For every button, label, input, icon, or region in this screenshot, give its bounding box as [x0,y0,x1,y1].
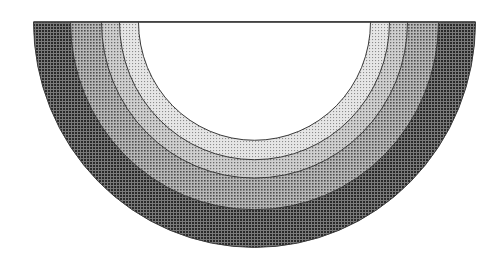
concentric-semicircle-diagram [0,0,504,266]
